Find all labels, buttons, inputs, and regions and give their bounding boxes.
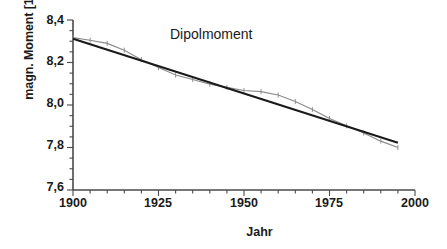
data-error-bars [73, 35, 398, 150]
y-axis-ticks [67, 20, 73, 190]
dipole-moment-chart: magn. Moment [1022 Am2] Jahr Dipolmoment… [0, 0, 447, 249]
plot-area [0, 0, 447, 249]
axis-lines [73, 20, 415, 190]
trend-line [73, 39, 398, 143]
x-axis-ticks [73, 190, 415, 196]
